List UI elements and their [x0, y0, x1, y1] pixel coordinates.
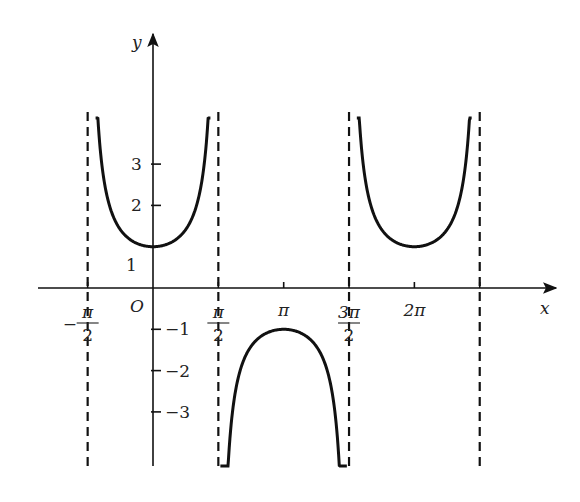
tick-labels: yxO321−1−2−3π2−π2π3π22π	[63, 32, 550, 422]
x-axis-label: x	[540, 298, 550, 318]
y-tick-label: −3	[165, 402, 190, 422]
curve-branch-2	[220, 329, 346, 466]
x-tick-label: 2π	[402, 300, 426, 320]
y-tick-label: 3	[131, 154, 142, 174]
origin-label: O	[130, 296, 144, 316]
y-tick-label: 1	[126, 255, 137, 275]
x-tick-label-sign: −	[63, 314, 77, 334]
y-tick-label: −2	[165, 361, 190, 381]
asymptote-lines	[88, 112, 480, 466]
axes	[38, 34, 556, 466]
y-tick-label: 2	[131, 195, 142, 215]
x-tick-label-den: 2	[213, 325, 224, 345]
curve-branches	[96, 118, 472, 466]
y-tick-label: −1	[165, 319, 190, 339]
x-tick-label-num: π	[81, 302, 94, 322]
x-tick-label-den: 2	[344, 325, 355, 345]
y-axis-label: y	[131, 32, 142, 52]
x-tick-label-num: π	[212, 302, 225, 322]
x-tick-label-den: 2	[82, 325, 93, 345]
curve-branch-3	[357, 118, 472, 247]
secant-graph: yxO321−1−2−3π2−π2π3π22π	[0, 0, 580, 502]
x-tick-label-num: 3π	[338, 302, 361, 322]
x-tick-label: π	[277, 300, 290, 320]
